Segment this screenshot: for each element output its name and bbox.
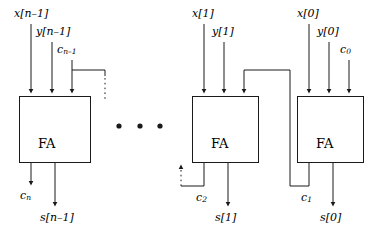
fa-label-0: FA <box>316 137 333 150</box>
output-route-carry-1 <box>300 163 309 186</box>
label-carry-out-2-sub: 2 <box>202 195 207 204</box>
fa-block-n-1 <box>20 97 91 163</box>
label-carry-out-n: cn <box>20 190 31 202</box>
label-x-0: x[0] <box>297 8 319 19</box>
label-carry-out-2: c2 <box>196 192 207 204</box>
carry-bend-n-1 <box>72 70 105 76</box>
ellipsis-dot-2 <box>137 123 142 128</box>
label-carry-out-1-sub: 1 <box>307 195 312 204</box>
label-carry-in-0-sub: 0 <box>346 47 351 56</box>
label-x-n-1: x[n–1] <box>14 8 48 19</box>
ellipsis-dots <box>116 123 162 128</box>
fa-label-n-1: FA <box>38 137 55 150</box>
label-y-0: y[0] <box>317 26 339 37</box>
label-carry-out-1: c1 <box>301 192 312 204</box>
fa-label-1: FA <box>211 137 228 150</box>
label-y-n-1: y[n–1] <box>36 26 70 37</box>
label-sum-1: s[1] <box>215 212 236 223</box>
ellipsis-dot-3 <box>157 123 162 128</box>
label-carry-in-0: c0 <box>340 44 351 56</box>
fa-block-0 <box>298 97 364 163</box>
diagram-canvas: x[n–1] y[n–1] cn–1 FA cn s[n–1] x[1] y[1… <box>0 0 379 234</box>
label-carry-in-n-1-sub: n–1 <box>63 47 76 56</box>
label-sum-n-1: s[n–1] <box>40 212 74 223</box>
label-x-1: x[1] <box>192 8 214 19</box>
label-carry-in-n-1: cn–1 <box>57 44 77 56</box>
carry-route-c1 <box>244 70 300 186</box>
fa-block-1 <box>193 97 259 163</box>
label-y-1: y[1] <box>212 26 234 37</box>
output-route-carry-2 <box>181 163 204 186</box>
label-sum-0: s[0] <box>320 212 341 223</box>
ellipsis-dot-1 <box>116 123 121 128</box>
label-carry-out-n-sub: n <box>26 193 31 202</box>
